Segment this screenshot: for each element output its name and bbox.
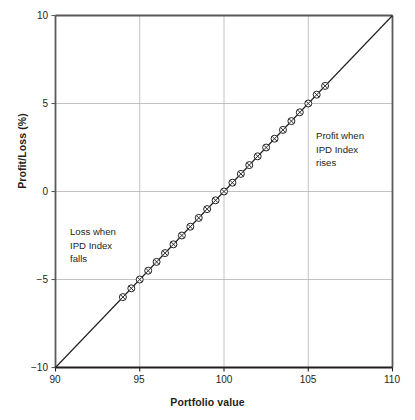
- data-point-marker: [153, 258, 160, 265]
- data-point-marker: [322, 82, 329, 89]
- data-point-marker: [178, 232, 185, 239]
- data-point-marker: [170, 241, 177, 248]
- data-point-marker: [187, 223, 194, 230]
- data-point-marker: [313, 91, 320, 98]
- y-tick-label-neg5: −5: [14, 274, 48, 285]
- y-tick-label-0: 0: [14, 186, 48, 197]
- data-point-marker: [162, 250, 169, 257]
- data-point-marker: [145, 267, 152, 274]
- data-point-marker: [263, 144, 270, 151]
- data-point-marker: [246, 162, 253, 169]
- data-point-marker: [237, 170, 244, 177]
- y-tick-label-5: 5: [14, 98, 48, 109]
- y-tick-label-neg10: −10: [14, 362, 48, 373]
- data-point-marker: [221, 188, 228, 195]
- x-tick-label-100: 100: [204, 374, 244, 385]
- loss-annotation: Loss when IPD Index falls: [70, 225, 116, 266]
- x-tick-label-110: 110: [372, 374, 412, 385]
- data-point-marker: [279, 126, 286, 133]
- data-point-marker: [204, 206, 211, 213]
- profit-annotation: Profit when IPD Index rises: [316, 129, 364, 170]
- chart-figure: Profit/Loss (%) Portfolio value 10 5 0 −…: [0, 0, 415, 420]
- data-point-marker: [119, 294, 126, 301]
- plot-area: [0, 0, 415, 420]
- x-axis-label: Portfolio value: [0, 396, 415, 408]
- y-tick-label-10: 10: [14, 10, 48, 21]
- data-point-marker: [128, 285, 135, 292]
- x-tick-label-95: 95: [119, 374, 159, 385]
- x-tick-label-90: 90: [35, 374, 75, 385]
- data-point-marker: [136, 276, 143, 283]
- x-tick-label-105: 105: [288, 374, 328, 385]
- data-point-marker: [212, 197, 219, 204]
- data-point-marker: [271, 135, 278, 142]
- data-point-marker: [305, 100, 312, 107]
- data-point-marker: [195, 214, 202, 221]
- data-point-marker: [229, 179, 236, 186]
- data-point-marker: [254, 153, 261, 160]
- data-point-marker: [296, 109, 303, 116]
- data-point-marker: [288, 118, 295, 125]
